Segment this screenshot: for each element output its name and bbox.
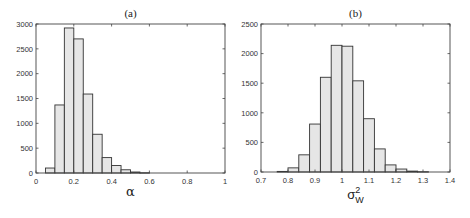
y-tick-label: 1500 [16, 94, 33, 103]
y-tick-label: 500 [245, 138, 258, 147]
x-axis-label-base: σ [347, 187, 355, 202]
x-tick-label: 1.2 [391, 176, 401, 185]
histogram-bar [385, 165, 396, 172]
histogram-bar [121, 170, 130, 173]
y-tick-label: 2000 [16, 69, 33, 78]
histogram-bar [45, 168, 54, 173]
x-tick-label: 0.4 [106, 177, 116, 186]
y-tick-label: 2500 [16, 45, 33, 54]
histogram-bar [320, 77, 331, 172]
histogram-bar [83, 94, 92, 173]
x-tick-label: 1.1 [364, 176, 374, 185]
histogram-panel-b: (b) 0.70.80.911.11.21.31.405001000150020… [241, 7, 455, 205]
histogram-bar [93, 134, 102, 173]
x-axis-label-alpha: α [126, 184, 135, 199]
histogram-bar [299, 155, 310, 172]
x-axis-label-superscript: 2 [355, 185, 360, 195]
bars-alpha [45, 28, 149, 173]
y-tick-label: 0 [29, 169, 33, 178]
y-tick-label: 3000 [16, 20, 33, 29]
y-tick-label: 0 [254, 168, 258, 177]
panel-title-a: (a) [124, 7, 137, 20]
x-tick-label: 0 [34, 177, 38, 186]
histogram-bar [64, 28, 73, 173]
y-tick-label: 500 [20, 144, 33, 153]
panel-title-b: (b) [349, 7, 362, 20]
x-axis-label-sigma-w-squared: σ2W [347, 185, 364, 205]
histogram-bar [112, 166, 121, 173]
x-tick-label: 0.7 [256, 176, 266, 185]
y-tick-label: 1000 [241, 109, 258, 118]
y-tick-label: 1500 [241, 79, 258, 88]
histogram-bar [374, 149, 385, 172]
x-tick-label: 1.4 [445, 176, 455, 185]
y-tick-label: 2000 [241, 49, 258, 58]
x-tick-label: 1 [340, 176, 344, 185]
x-tick-label: 0.6 [144, 177, 154, 186]
histogram-bar [288, 168, 299, 172]
histogram-bar [55, 105, 64, 173]
x-axis-label-subscript: W [355, 195, 364, 205]
x-tick-label: 0.9 [310, 176, 320, 185]
x-tick-label: 0.8 [182, 177, 192, 186]
histogram-bar [102, 158, 111, 173]
x-tick-label: 0.2 [69, 177, 79, 186]
histogram-bar [310, 124, 321, 172]
x-tick-label: 0.8 [283, 176, 293, 185]
histogram-bar [331, 45, 342, 172]
histogram-bar [342, 46, 353, 172]
histogram-panel-a: (a) 00.20.40.60.810500100015002000250030… [16, 7, 227, 199]
histogram-bar [74, 39, 83, 173]
histogram-bar [353, 81, 364, 172]
bars-sigma-w-squared [277, 45, 428, 172]
histogram-figure: (a) 00.20.40.60.810500100015002000250030… [0, 0, 470, 218]
axes-alpha: 00.20.40.60.81050010001500200025003000 [16, 20, 227, 186]
x-tick-label: 1.3 [418, 176, 428, 185]
y-tick-label: 2500 [241, 20, 258, 29]
x-tick-label: 1 [223, 177, 227, 186]
histogram-bar [364, 119, 375, 172]
y-tick-label: 1000 [16, 119, 33, 128]
